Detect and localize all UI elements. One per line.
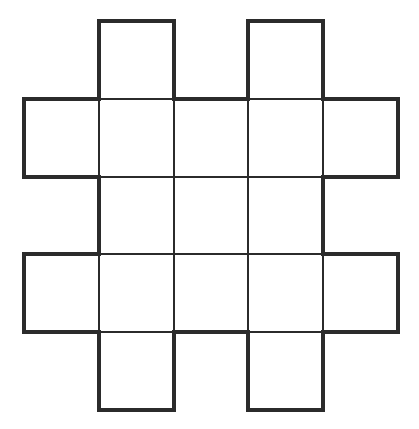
inner-grid-lines [99, 99, 323, 332]
shape-outline [24, 21, 398, 410]
grid-diagram [0, 0, 419, 429]
